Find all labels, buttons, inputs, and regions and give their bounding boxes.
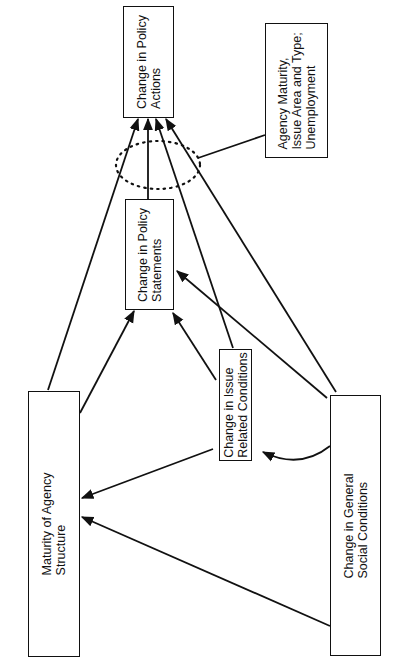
node-agency-maturity: Maturity of Agency Structure bbox=[28, 391, 80, 657]
arrow-issue-conditions-to-policy-statements bbox=[173, 313, 216, 380]
node-policy-statements: Change in Policy Statements bbox=[125, 199, 174, 310]
node-social-conditions: Change in General Social Conditions bbox=[330, 395, 381, 656]
label-line: Social Conditions bbox=[356, 473, 370, 578]
label-line: Maturity of Agency bbox=[40, 473, 54, 576]
node-agency-maturity-label: Maturity of Agency Structure bbox=[40, 473, 68, 576]
label-line: Unemployment bbox=[304, 32, 318, 149]
label-line: Issue Area and Type; bbox=[290, 32, 304, 149]
causal-diagram: Change in Policy Actions Agency Maturity… bbox=[0, 0, 411, 662]
moderator-connector-line bbox=[198, 135, 265, 158]
node-issue-conditions: Change in Issue Related Conditions bbox=[219, 349, 252, 461]
node-issue-conditions-label: Change in Issue Related Conditions bbox=[222, 352, 250, 458]
arrow-social-conditions-to-policy-statements bbox=[177, 271, 327, 398]
node-moderators: Agency Maturity, Issue Area and Type; Un… bbox=[265, 23, 328, 158]
node-social-conditions-label: Change in General Social Conditions bbox=[342, 473, 370, 578]
label-line: Related Conditions bbox=[236, 352, 250, 458]
arrow-agency-maturity-to-policy-statements bbox=[80, 311, 134, 413]
label-line: Statements bbox=[150, 208, 164, 302]
arrow-social-conditions-to-issue-conditions bbox=[263, 446, 330, 460]
label-line: Agency Maturity, bbox=[276, 32, 290, 149]
node-policy-actions: Change in Policy Actions bbox=[123, 6, 174, 118]
node-policy-statements-label: Change in Policy Statements bbox=[136, 208, 164, 302]
label-line: Structure bbox=[54, 473, 68, 576]
label-line: Actions bbox=[149, 15, 163, 109]
node-policy-actions-label: Change in Policy Actions bbox=[135, 15, 163, 109]
node-moderators-label: Agency Maturity, Issue Area and Type; Un… bbox=[276, 32, 318, 149]
label-line: Change in Policy bbox=[135, 15, 149, 109]
arrow-social-conditions-to-agency-maturity bbox=[82, 517, 330, 626]
label-line: Change in Issue bbox=[222, 352, 236, 458]
arrow-issue-conditions-to-agency-maturity bbox=[82, 449, 213, 498]
label-line: Change in General bbox=[342, 473, 356, 578]
label-line: Change in Policy bbox=[136, 208, 150, 302]
